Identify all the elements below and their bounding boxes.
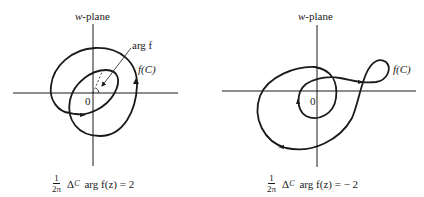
arg-f-text: arg f	[132, 39, 152, 51]
delta-subscript: C	[289, 179, 294, 188]
plane-rest: -plane	[82, 10, 109, 22]
left-w-plane	[13, 24, 178, 166]
arg-f-pointer-arrow	[102, 48, 131, 86]
left-image-curve	[51, 48, 137, 136]
left-curve-label: f(C)	[138, 64, 156, 75]
left-direction-arrow-icon	[133, 78, 139, 84]
frac-den: 2π	[267, 184, 276, 194]
diagram-canvas	[0, 0, 424, 197]
frac-num: 1	[53, 173, 60, 184]
plane-rest: -plane	[305, 10, 332, 22]
formula-expression: arg f(z) = − 2	[299, 178, 358, 190]
left-origin-label: 0	[85, 96, 91, 107]
right-fraction: 1 2π	[267, 173, 276, 194]
delta-subscript: C	[74, 179, 79, 188]
right-w-plane	[222, 25, 416, 167]
right-curve-label: f(C)	[393, 64, 411, 75]
left-plane-label: w-plane	[75, 11, 110, 22]
angle-arc	[96, 88, 99, 93]
frac-num: 1	[268, 173, 275, 184]
delta-symbol: Δ	[67, 178, 74, 190]
left-formula: 1 2π ΔC arg f(z) = 2	[52, 173, 134, 194]
radius-dashed-line	[93, 72, 102, 93]
right-image-curve	[258, 60, 389, 149]
right-plane-label: w-plane	[298, 11, 333, 22]
frac-den: 2π	[52, 184, 61, 194]
formula-expression: arg f(z) = 2	[84, 178, 134, 190]
left-arg-f-label: arg f	[132, 40, 152, 51]
left-fraction: 1 2π	[52, 173, 61, 194]
right-formula: 1 2π ΔC arg f(z) = − 2	[267, 173, 358, 194]
right-origin-label: 0	[310, 96, 316, 107]
delta-symbol: Δ	[282, 178, 289, 190]
